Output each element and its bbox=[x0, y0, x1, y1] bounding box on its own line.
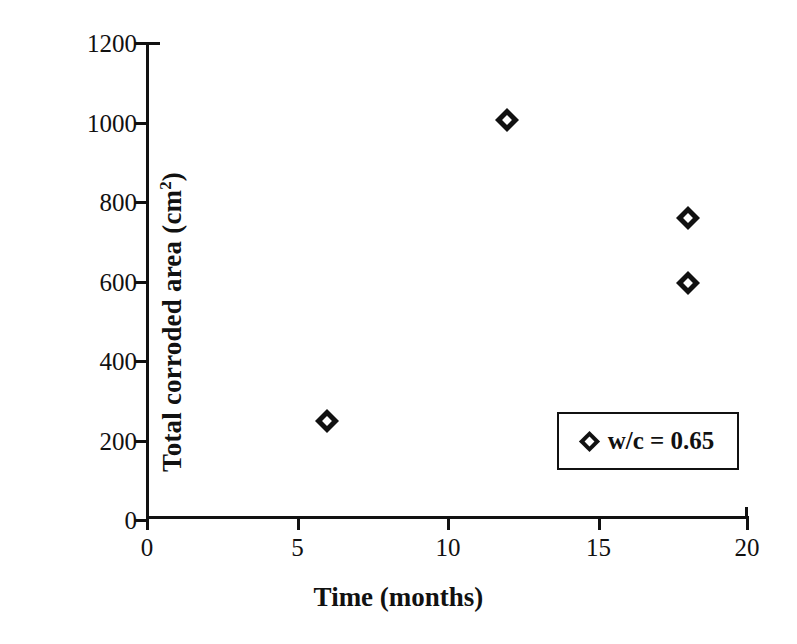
y-tick-label: 600 bbox=[100, 269, 138, 294]
x-tick-label: 20 bbox=[735, 535, 760, 560]
legend: w/c = 0.65 bbox=[557, 412, 739, 470]
y-tick-label: 800 bbox=[100, 190, 138, 215]
y-axis-top-endcap bbox=[146, 42, 160, 45]
x-tick-mark bbox=[297, 519, 300, 530]
data-point-marker bbox=[315, 409, 339, 433]
chart-figure: Total corroded area (cm2) 0 200 400 600 … bbox=[0, 0, 797, 644]
x-axis-right-endcap bbox=[745, 507, 748, 519]
y-axis-line bbox=[146, 42, 149, 520]
x-tick-mark bbox=[598, 519, 601, 530]
x-tick-mark bbox=[447, 519, 450, 530]
legend-label: w/c = 0.65 bbox=[608, 427, 715, 455]
data-point-marker bbox=[676, 271, 700, 295]
data-point-marker bbox=[495, 108, 519, 132]
x-tick-label: 5 bbox=[291, 535, 304, 560]
x-tick-mark bbox=[746, 519, 749, 530]
y-tick-label: 1000 bbox=[87, 110, 137, 135]
x-tick-label: 10 bbox=[436, 535, 461, 560]
x-tick-label: 15 bbox=[586, 535, 611, 560]
x-tick-label: 0 bbox=[141, 535, 154, 560]
y-tick-label: 1200 bbox=[87, 31, 137, 56]
diamond-marker-icon bbox=[579, 430, 600, 451]
x-axis-title: Time (months) bbox=[0, 582, 797, 613]
data-point-marker bbox=[676, 206, 700, 230]
y-tick-label: 0 bbox=[125, 508, 138, 533]
x-tick-mark bbox=[146, 519, 149, 530]
y-tick-label: 200 bbox=[100, 428, 138, 453]
y-tick-label: 400 bbox=[100, 349, 138, 374]
